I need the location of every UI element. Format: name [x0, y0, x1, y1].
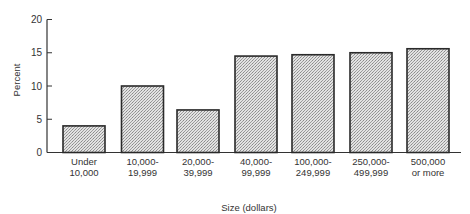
x-axis-title: Size (dollars) — [221, 202, 276, 213]
y-tick-label: 10 — [31, 81, 43, 92]
x-tick-label: 20,000-39,999 — [182, 156, 214, 178]
x-tick-label: 250,000-499,999 — [352, 156, 390, 178]
bar — [350, 53, 392, 153]
bar-chart: 05101520 Under10,00010,000-19,99920,000-… — [0, 0, 470, 214]
x-axis-labels: Under10,00010,000-19,99920,000-39,99940,… — [69, 156, 445, 178]
x-tick-label: 40,000-99,999 — [240, 156, 272, 178]
bar — [63, 126, 105, 153]
bars — [63, 49, 449, 153]
bar — [177, 110, 219, 153]
y-tick-label: 20 — [31, 14, 43, 25]
y-tick-label: 0 — [36, 147, 42, 158]
y-axis-title: Percent — [11, 63, 22, 96]
bar — [292, 55, 334, 153]
x-tick-label: 500,000or more — [411, 156, 445, 178]
y-tick-label: 15 — [31, 47, 43, 58]
y-tick-label: 5 — [36, 114, 42, 125]
x-tick-label: 100,000-249,999 — [294, 156, 332, 178]
x-tick-label: 10,000-19,999 — [126, 156, 158, 178]
bar — [235, 56, 277, 152]
x-tick-label: Under10,000 — [69, 156, 98, 178]
bar — [122, 86, 164, 153]
bar — [407, 49, 449, 153]
